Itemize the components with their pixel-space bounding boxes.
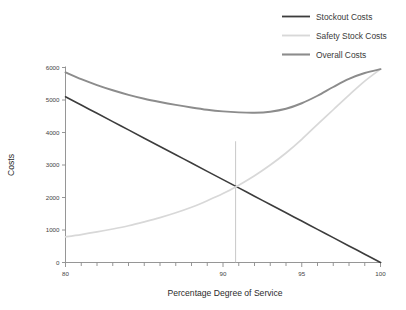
x-tick-label: 100 bbox=[375, 270, 386, 277]
y-tick-label: 4000 bbox=[46, 129, 60, 136]
series-line-safety-stock-costs bbox=[66, 69, 381, 237]
legend-label-overall-costs: Overall Costs bbox=[316, 50, 366, 60]
x-axis-title: Percentage Degree of Service bbox=[167, 288, 282, 298]
series-layer bbox=[66, 69, 381, 262]
x-tick-label: 90 bbox=[220, 270, 227, 277]
x-tick-label: 95 bbox=[298, 270, 305, 277]
y-tick-label: 5000 bbox=[46, 96, 60, 103]
y-tick-label: 1000 bbox=[46, 226, 60, 233]
x-axis: 809095100 bbox=[62, 263, 386, 277]
y-tick-label: 0 bbox=[56, 259, 60, 266]
legend-label-stockout-costs: Stockout Costs bbox=[316, 12, 372, 22]
y-tick-label: 6000 bbox=[46, 64, 60, 71]
y-axis: 0100020003000400050006000 bbox=[46, 64, 66, 266]
cost-tradeoff-line-chart: Stockout CostsSafety Stock CostsOverall … bbox=[0, 0, 406, 310]
y-tick-label: 2000 bbox=[46, 194, 60, 201]
series-line-overall-costs bbox=[66, 69, 381, 113]
x-tick-label: 80 bbox=[62, 270, 69, 277]
chart-legend: Stockout CostsSafety Stock CostsOverall … bbox=[282, 12, 387, 60]
y-tick-label: 3000 bbox=[46, 161, 60, 168]
y-axis-title: Costs bbox=[6, 154, 16, 176]
legend-label-safety-stock-costs: Safety Stock Costs bbox=[316, 31, 387, 41]
series-line-stockout-costs bbox=[66, 97, 381, 263]
chart-container: Stockout CostsSafety Stock CostsOverall … bbox=[0, 0, 406, 310]
